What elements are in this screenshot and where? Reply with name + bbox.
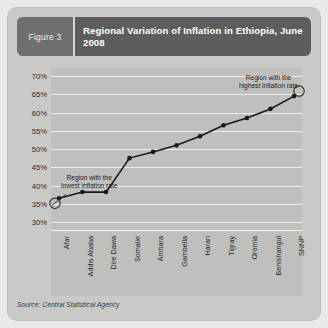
- figure-title: Regional Variation of Inflation in Ethio…: [75, 17, 311, 56]
- y-axis-tick-label: 40%: [32, 181, 47, 190]
- y-axis-tick-label: 35%: [32, 199, 47, 208]
- figure-number-tab: Figure 3: [17, 17, 75, 56]
- x-axis-tick-label: Gambella: [180, 236, 189, 267]
- figure-card: Figure 3 Regional Variation of Inflation…: [8, 8, 320, 320]
- y-axis: 70%65%60%55%50%45%40%35%30%: [17, 60, 51, 222]
- x-axis-tick-label: Afar: [62, 236, 71, 249]
- x-axis-tick-label: SNNP: [297, 236, 306, 256]
- y-axis-tick-label: 55%: [32, 126, 47, 135]
- y-axis-tick-label: 60%: [32, 108, 47, 117]
- x-axis-tick-label: Oromia: [250, 236, 259, 260]
- x-axis: AfarAddis AbabaDire DawaSomalieAmharaGam…: [51, 60, 302, 296]
- x-axis-tick-label: Harari: [203, 236, 212, 256]
- y-axis-tick-label: 50%: [32, 145, 47, 154]
- x-axis-tick-label: Amhara: [156, 236, 165, 261]
- y-axis-tick-label: 65%: [32, 90, 47, 99]
- source-note: Source: Central Statistical Agency: [17, 301, 120, 308]
- chart-container: 70%65%60%55%50%45%40%35%30% Region with …: [17, 60, 311, 296]
- y-axis-tick-label: 70%: [32, 72, 47, 81]
- figure-header: Figure 3 Regional Variation of Inflation…: [17, 17, 311, 56]
- x-axis-tick-label: Dire Dawa: [109, 236, 118, 270]
- figure-number-label: Figure 3: [29, 32, 62, 42]
- y-axis-tick-label: 45%: [32, 163, 47, 172]
- figure-footer: Source: Central Statistical Agency: [17, 296, 311, 312]
- y-axis-tick-label: 30%: [32, 218, 47, 227]
- x-axis-tick-label: Addis Ababa: [86, 236, 95, 276]
- x-axis-tick-label: Tigray: [227, 236, 236, 256]
- x-axis-tick-label: Somalie: [133, 236, 142, 262]
- x-axis-tick-label: Benishangul: [274, 236, 283, 276]
